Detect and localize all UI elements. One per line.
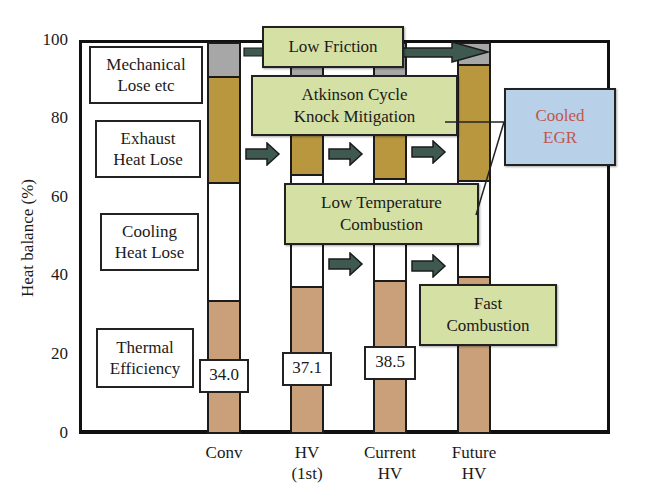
tech-fast-combustion: Fast Combustion bbox=[419, 284, 557, 346]
arrow-right-icon bbox=[245, 142, 281, 166]
y-axis-label: Heat balance (%) bbox=[18, 158, 38, 318]
y-tick-0: 0 bbox=[28, 423, 68, 443]
x-tick-hv1-line1: HV bbox=[267, 442, 347, 463]
tech-atkinson-line1: Atkinson Cycle bbox=[253, 84, 456, 106]
x-tick-future-line1: Future bbox=[434, 442, 514, 463]
x-tick-current-line2: HV bbox=[350, 463, 430, 484]
y-tick-100: 100 bbox=[28, 30, 68, 50]
tech-fast-line1: Fast bbox=[421, 293, 555, 315]
x-tick-future-line2: HV bbox=[434, 463, 514, 484]
arrow-right-icon bbox=[402, 40, 490, 66]
legend-thermal: Thermal Efficiency bbox=[96, 328, 194, 388]
y-tick-40: 40 bbox=[28, 265, 68, 285]
x-tick-hv1-line2: (1st) bbox=[267, 463, 347, 484]
bar-conv-mechanical bbox=[207, 42, 241, 78]
legend-cooling: Cooling Heat Lose bbox=[100, 213, 199, 271]
legend-thermal-line1: Thermal bbox=[98, 337, 192, 358]
legend-exhaust-line2: Heat Lose bbox=[97, 149, 199, 170]
x-tick-future: Future HV bbox=[434, 442, 514, 484]
y-tick-20: 20 bbox=[28, 344, 68, 364]
value-conv: 34.0 bbox=[199, 359, 249, 393]
x-tick-current: Current HV bbox=[350, 442, 430, 484]
legend-mechanical-line2: Lose etc bbox=[91, 75, 201, 96]
arrow-right-icon bbox=[411, 254, 447, 278]
egr-connector-lines bbox=[440, 90, 510, 220]
tech-atkinson: Atkinson Cycle Knock Mitigation bbox=[251, 75, 458, 136]
x-tick-hv1: HV (1st) bbox=[267, 442, 347, 484]
arrow-right-icon bbox=[328, 142, 364, 166]
legend-mechanical: Mechanical Lose etc bbox=[89, 46, 203, 104]
y-tick-80: 80 bbox=[28, 108, 68, 128]
value-current: 38.5 bbox=[364, 346, 416, 380]
legend-thermal-line2: Efficiency bbox=[98, 358, 192, 379]
value-hv1: 37.1 bbox=[282, 352, 332, 386]
x-tick-conv-line1: Conv bbox=[184, 442, 264, 463]
tech-fast-line2: Combustion bbox=[421, 315, 555, 337]
legend-cooling-line2: Heat Lose bbox=[102, 242, 197, 263]
bar-conv-cooling bbox=[207, 182, 241, 302]
tech-egr-line1: Cooled bbox=[506, 105, 614, 127]
legend-cooling-line1: Cooling bbox=[102, 221, 197, 242]
tech-low-friction-label: Low Friction bbox=[264, 36, 402, 58]
x-tick-current-line1: Current bbox=[350, 442, 430, 463]
arrow-right-icon bbox=[328, 252, 364, 276]
tech-cooled-egr: Cooled EGR bbox=[504, 88, 616, 166]
legend-exhaust: Exhaust Heat Lose bbox=[95, 120, 201, 178]
bar-conv-exhaust bbox=[207, 76, 241, 184]
y-tick-60: 60 bbox=[28, 187, 68, 207]
x-tick-conv: Conv bbox=[184, 442, 264, 463]
tech-atkinson-line2: Knock Mitigation bbox=[253, 106, 456, 128]
tech-low-friction: Low Friction bbox=[262, 26, 404, 68]
legend-exhaust-line1: Exhaust bbox=[97, 128, 199, 149]
tech-egr-line2: EGR bbox=[506, 127, 614, 149]
legend-mechanical-line1: Mechanical bbox=[91, 54, 201, 75]
